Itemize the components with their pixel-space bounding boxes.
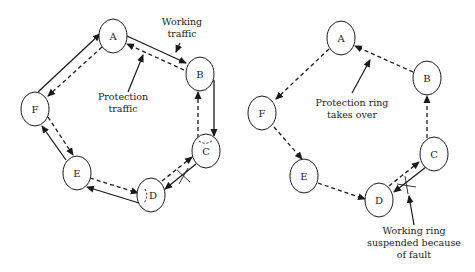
protection-traffic-pointer — [128, 55, 143, 92]
protection-ring-label-line1: Protection ring — [316, 97, 389, 108]
node-a-label-right: A — [336, 33, 345, 44]
left-ring: A B C D E F Working traffic Protection t… — [21, 16, 220, 212]
working-ring-label-line2: suspended because — [367, 237, 461, 248]
fault-mark-right — [397, 176, 416, 194]
protection-traffic-label-line1: Protection — [98, 91, 148, 102]
right-ring: A B C D E F Protection ring takes over W… — [248, 21, 461, 260]
working-traffic-pointer — [176, 43, 180, 52]
working-link-c-d-right — [394, 167, 426, 192]
protection-ring-pointer — [352, 60, 370, 93]
working-link-c-d — [165, 164, 196, 189]
ring-protection-diagram: A B C D E F Working traffic Protection t… — [0, 0, 475, 272]
working-link-e-f — [42, 126, 66, 160]
protection-link-f-e — [48, 117, 73, 155]
protection-link-d-c-right — [389, 162, 419, 186]
protection-link-a-f-right — [276, 49, 329, 99]
nodes-left — [21, 19, 220, 212]
node-c-label: C — [202, 146, 210, 157]
protection-link-b-a-right — [355, 46, 413, 72]
protection-link-a-f — [48, 47, 102, 96]
protection-link-b-a — [127, 44, 184, 70]
working-ring-label-line1: Working ring — [382, 225, 445, 236]
node-b-label: B — [196, 69, 203, 80]
annotation-pointers-left — [128, 43, 180, 92]
node-c-label-right: C — [430, 149, 438, 160]
node-d-label-right: D — [375, 195, 383, 206]
annotations-right: Protection ring takes over Working ring … — [316, 97, 462, 260]
protection-link-f-e-right — [274, 127, 302, 159]
diagram-svg: A B C D E F Working traffic Protection t… — [0, 0, 475, 272]
working-traffic-label-line2: traffic — [167, 28, 196, 39]
protection-ring-label-line2: takes over — [327, 109, 377, 120]
node-f-label: F — [32, 104, 39, 115]
node-e-label: E — [73, 168, 80, 179]
working-link-f-a — [38, 34, 100, 92]
working-traffic-label-line1: Working — [162, 16, 202, 27]
node-f-label-right: F — [259, 108, 266, 119]
node-a-label: A — [108, 31, 117, 42]
protection-link-e-d-right — [318, 183, 365, 199]
node-e-label-right: E — [300, 171, 307, 182]
node-d-label: D — [149, 190, 157, 201]
working-ring-label-line3: of fault — [397, 249, 432, 260]
working-link-d-e — [87, 187, 139, 203]
protection-traffic-label-line2: traffic — [108, 103, 137, 114]
working-ring-pointer — [409, 196, 414, 225]
node-b-label-right: B — [423, 73, 430, 84]
